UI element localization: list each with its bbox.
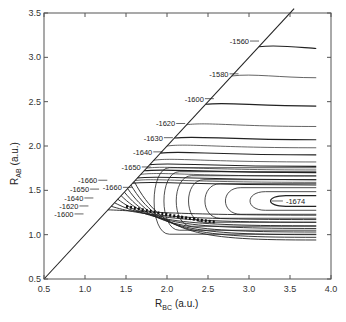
y-tick-label: 1.5: [28, 185, 41, 195]
contour-level-label: -1660: [78, 176, 97, 185]
contour-line: [259, 46, 316, 49]
x-tick-label: 3.5: [284, 284, 297, 294]
well-contour: [250, 192, 316, 211]
axes-box: [44, 13, 331, 279]
x-tick-label: 1.0: [79, 284, 92, 294]
contour-line: [206, 103, 317, 106]
x-tick-label: 2.5: [202, 284, 215, 294]
x-tick-label: 0.5: [38, 284, 51, 294]
contour-line: [160, 152, 316, 155]
y-tick-label: 2.5: [28, 97, 41, 107]
contour-line: [144, 170, 316, 173]
y-tick-label: 2.0: [28, 141, 41, 151]
contour-line: [187, 124, 317, 127]
contour-line: [131, 185, 316, 237]
y-tick-label: 1.0: [28, 230, 41, 240]
x-tick-label: 3.0: [243, 284, 256, 294]
contour-level-label: -1620: [156, 119, 175, 128]
contour-level-label: -1630: [144, 134, 163, 143]
contour-level-label: -1560: [230, 37, 249, 46]
contour-line: [150, 164, 316, 167]
y-tick-label: 3.5: [28, 8, 41, 18]
x-tick-label: 4.0: [325, 284, 338, 294]
contour-plot: 0.51.01.52.02.53.03.54.00.51.01.52.02.53…: [0, 0, 346, 322]
contour-line: [167, 145, 316, 148]
contour-level-label: -1580: [209, 70, 228, 79]
contour-level-label: -1650: [70, 185, 89, 194]
contour-level-label: -1660: [103, 183, 122, 192]
y-tick-label: 3.0: [28, 52, 41, 62]
x-tick-label: 1.5: [120, 284, 133, 294]
axis-ticks: 0.51.01.52.02.53.03.54.00.51.01.52.02.53…: [28, 8, 337, 294]
x-axis-title: RBC(a.u.): [155, 298, 198, 311]
x-tick-label: 2.0: [161, 284, 174, 294]
contour-line: [134, 181, 316, 240]
contour-line: [174, 137, 316, 140]
contour-line: [232, 75, 316, 78]
y-axis-title: RAB(a.u.): [9, 142, 22, 185]
contour-level-label: -1600: [54, 210, 73, 219]
minimum-label: -1674: [286, 197, 305, 206]
contour-line: [154, 159, 316, 162]
contour-level-label: -1600: [185, 95, 204, 104]
contour-level-label: -1650: [122, 163, 141, 172]
diagonal-line: [44, 9, 294, 279]
plot-frame: [44, 9, 331, 279]
contour-level-label: -1640: [133, 148, 152, 157]
y-tick-label: 0.5: [28, 274, 41, 284]
